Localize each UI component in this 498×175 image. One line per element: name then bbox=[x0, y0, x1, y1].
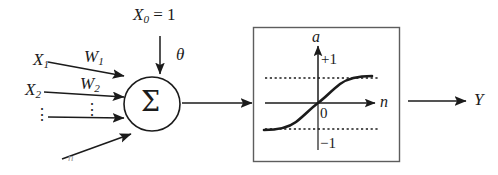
input-label-x1: X1 bbox=[33, 51, 49, 70]
plot-upper-limit-label: +1 bbox=[321, 52, 337, 67]
output-label: Y bbox=[474, 91, 483, 108]
inputs-ellipsis: ⋮ bbox=[34, 108, 50, 121]
bias-input-label: X0 = 1 bbox=[133, 6, 176, 25]
input-index-n-label: n bbox=[68, 152, 74, 163]
plot-lower-limit-label: −1 bbox=[320, 136, 336, 151]
plot-x-axis-label: n bbox=[380, 94, 388, 110]
threshold-label: θ bbox=[176, 46, 184, 63]
plot-origin-label: 0 bbox=[320, 106, 328, 121]
weight-label-w1: W1 bbox=[84, 48, 104, 67]
summation-symbol: Σ bbox=[141, 88, 160, 115]
weight-label-w2: W2 bbox=[80, 75, 100, 94]
diagram-vector-layer bbox=[0, 0, 498, 175]
plot-y-axis-label: a bbox=[312, 29, 320, 45]
input-label-x2: X2 bbox=[25, 81, 41, 100]
weights-ellipsis: ⋮ bbox=[84, 103, 100, 116]
neuron-diagram: X0 = 1 X1 X2 ⋮ n W1 W2 ⋮ θ Σ a +1 0 −1 n… bbox=[0, 0, 498, 175]
